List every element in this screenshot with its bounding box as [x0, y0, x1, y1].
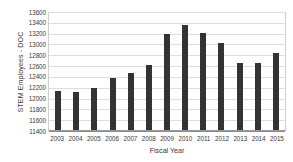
bar-slot — [231, 13, 249, 130]
bar[interactable] — [146, 65, 152, 130]
plot-area — [48, 12, 286, 131]
y-axis-tick-label: 12200 — [21, 84, 46, 91]
y-axis-tick-label: 13000 — [21, 41, 46, 48]
bar[interactable] — [91, 88, 97, 130]
bar-slot — [67, 13, 85, 130]
x-axis-tick-label: 2010 — [176, 133, 194, 144]
bar[interactable] — [182, 25, 188, 130]
bar-slot — [122, 13, 140, 130]
x-axis-tick-label: 2005 — [85, 133, 103, 144]
y-axis-tick-label: 11600 — [21, 117, 46, 124]
x-axis-title: Fiscal Year — [48, 145, 286, 157]
x-axis-tick-label: 2003 — [48, 133, 66, 144]
y-axis-tick-label: 13400 — [21, 19, 46, 26]
bar[interactable] — [55, 91, 61, 130]
y-axis-tick-label: 11800 — [21, 106, 46, 113]
bar[interactable] — [73, 92, 79, 130]
x-axis-tick-labels: 2003200420052006200720082009201020112012… — [48, 133, 286, 144]
y-axis-tick-label: 12400 — [21, 73, 46, 80]
bar-slot — [103, 13, 121, 130]
y-axis-tick-label: 13600 — [21, 9, 46, 16]
y-axis-tick-label: 12600 — [21, 63, 46, 70]
bar[interactable] — [110, 78, 116, 130]
gridline — [49, 131, 285, 132]
x-axis-tick-label: 2015 — [268, 133, 286, 144]
x-axis-tick-label: 2009 — [158, 133, 176, 144]
bar-slot — [249, 13, 267, 130]
y-axis-tick-labels: 1360013400132001300012800126001240012200… — [21, 12, 46, 131]
x-axis-tick-label: 2014 — [249, 133, 267, 144]
x-axis-tick-label: 2004 — [66, 133, 84, 144]
bar[interactable] — [218, 43, 224, 130]
y-axis-tick-label: 13200 — [21, 30, 46, 37]
y-axis-tick-label: 12000 — [21, 95, 46, 102]
bar-slot — [158, 13, 176, 130]
bar[interactable] — [164, 34, 170, 130]
y-axis-tick-label: 12800 — [21, 52, 46, 59]
bar[interactable] — [200, 33, 206, 130]
x-axis-tick-label: 2013 — [231, 133, 249, 144]
x-axis-tick-label: 2011 — [195, 133, 213, 144]
x-axis-tick-label: 2006 — [103, 133, 121, 144]
bar-slot — [194, 13, 212, 130]
bar-slot — [85, 13, 103, 130]
bar[interactable] — [255, 63, 261, 130]
bar-slot — [267, 13, 285, 130]
x-axis-tick-label: 2008 — [140, 133, 158, 144]
bar[interactable] — [273, 53, 279, 130]
x-axis-tick-label: 2012 — [213, 133, 231, 144]
bar-slot — [49, 13, 67, 130]
bar-slot — [212, 13, 230, 130]
bar-slot — [176, 13, 194, 130]
x-axis-tick-label: 2007 — [121, 133, 139, 144]
bar-chart: STEM Employees - DOC 1360013400132001300… — [0, 0, 293, 162]
y-axis-tick-label: 11400 — [21, 128, 46, 135]
bar[interactable] — [237, 63, 243, 130]
bar[interactable] — [128, 73, 134, 130]
bar-slot — [140, 13, 158, 130]
bar-series — [49, 13, 285, 130]
